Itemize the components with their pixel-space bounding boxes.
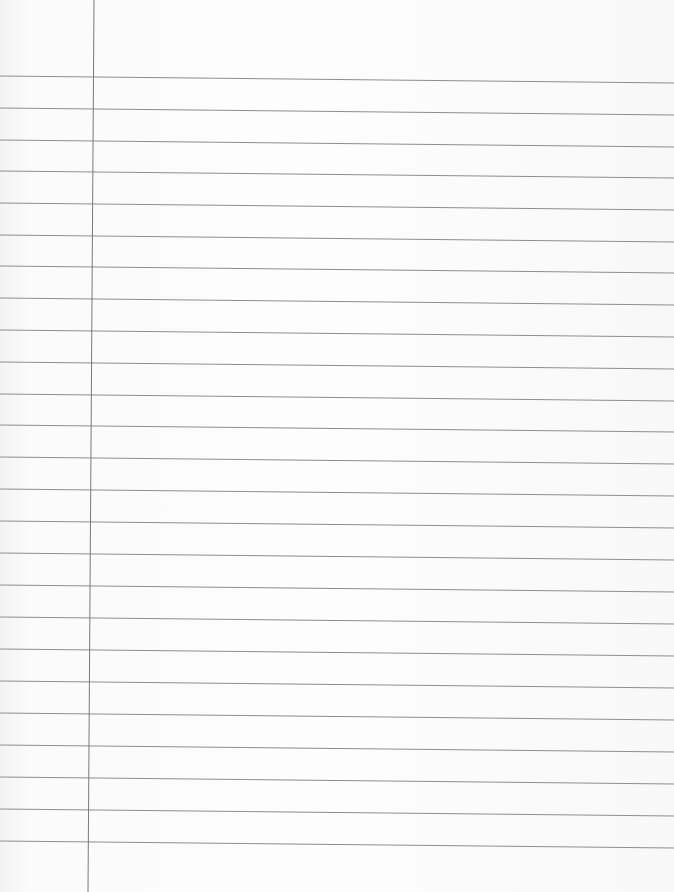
horizontal-rule-line <box>0 745 674 752</box>
horizontal-rule-line <box>0 425 674 432</box>
margin-line <box>88 0 94 892</box>
horizontal-rule-line <box>0 457 674 464</box>
horizontal-rule-line <box>0 713 674 720</box>
horizontal-rule-line <box>0 140 674 147</box>
horizontal-rule-line <box>0 809 674 816</box>
horizontal-rule-line <box>0 203 674 210</box>
horizontal-rule-line <box>0 553 674 560</box>
horizontal-rule-line <box>0 298 674 305</box>
horizontal-rule-line <box>0 617 674 624</box>
horizontal-rule-line <box>0 681 674 688</box>
ruled-lines <box>0 0 674 892</box>
horizontal-rule-line <box>0 108 674 115</box>
horizontal-rule-line <box>0 585 674 592</box>
horizontal-rule-line <box>0 521 674 528</box>
horizontal-rule-line <box>0 394 674 401</box>
lined-paper-sheet <box>0 0 674 892</box>
horizontal-rule-line <box>0 330 674 337</box>
horizontal-rule-line <box>0 266 674 273</box>
horizontal-rule-line <box>0 649 674 656</box>
horizontal-rule-line <box>0 235 674 242</box>
horizontal-rule-line <box>0 777 674 784</box>
horizontal-rule-line <box>0 489 674 496</box>
horizontal-rule-line <box>0 171 674 178</box>
horizontal-rule-line <box>0 362 674 369</box>
horizontal-rule-line <box>0 841 674 848</box>
horizontal-rule-line <box>0 76 674 83</box>
